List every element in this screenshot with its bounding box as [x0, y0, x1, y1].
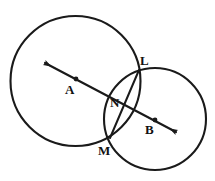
label-intersection-m: M [98, 144, 110, 157]
label-intersection-l: L [140, 54, 149, 67]
label-center-b: B [145, 123, 154, 136]
geometry-figure: A B L M N [0, 0, 215, 181]
point-a-marker [74, 77, 79, 82]
label-chord-crossing-n: N [110, 96, 119, 109]
label-center-a: A [65, 83, 74, 96]
